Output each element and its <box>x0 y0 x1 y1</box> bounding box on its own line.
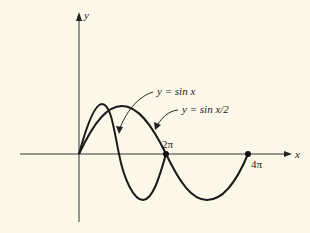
graph-canvas: x y 2π 4π y = sin x y = sin x/2 <box>0 0 310 233</box>
y-axis-label: y <box>83 9 89 21</box>
tick-label-two-pi: 2π <box>162 138 174 150</box>
label-sin-x-half: y = sin x/2 <box>181 103 229 115</box>
x-axis-arrow-icon <box>284 151 292 157</box>
label-sin-x: y = sin x <box>156 85 195 97</box>
pointer-sin-x-half-arrow-icon <box>154 122 161 130</box>
point-two-pi <box>163 151 169 157</box>
pointer-sin-x-half <box>158 110 178 124</box>
pointer-sin-x-arrow-icon <box>116 126 123 134</box>
tick-label-four-pi: 4π <box>251 158 263 170</box>
point-four-pi <box>245 151 251 157</box>
y-axis-arrow-icon <box>76 12 82 21</box>
curve-sin-x <box>79 104 166 200</box>
x-axis-label: x <box>294 148 300 160</box>
